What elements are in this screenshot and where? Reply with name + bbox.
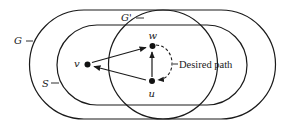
graph-diagram: G S G' v w u Desired path — [0, 0, 289, 131]
node-w-label: w — [149, 30, 158, 41]
region-g-label: G — [14, 35, 22, 46]
node-v — [85, 62, 91, 68]
node-w — [150, 43, 156, 49]
node-u-label: u — [149, 88, 155, 99]
node-u — [149, 78, 155, 84]
region-gprime-label: G' — [121, 12, 132, 23]
node-v-label: v — [74, 58, 80, 69]
region-s-label: S — [42, 78, 49, 89]
edge-v-to-w — [92, 48, 146, 63]
edge-desired-path — [156, 45, 172, 80]
desired-path-label: Desired path — [179, 59, 233, 70]
edge-u-to-v — [94, 67, 146, 81]
